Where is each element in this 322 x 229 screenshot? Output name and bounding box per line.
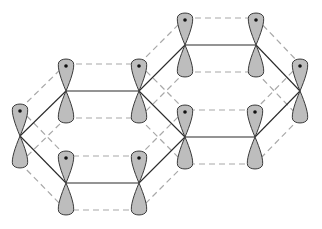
electron-dot (64, 64, 68, 68)
upper-lobe (58, 59, 73, 91)
electron-dot (64, 156, 68, 160)
lower-lobe (247, 137, 262, 169)
electron-dot (298, 64, 302, 68)
electron-dot (183, 18, 187, 22)
upper-lobe (177, 13, 192, 45)
lower-lobe (248, 45, 263, 77)
electron-dot (137, 64, 141, 68)
upper-lobe (248, 13, 263, 45)
p-orbitals (12, 13, 307, 215)
lower-lobe (131, 183, 146, 215)
naphthalene-p-orbital-diagram (0, 0, 322, 229)
electron-dot (18, 109, 22, 113)
electron-dot (137, 156, 141, 160)
p-orbital-atom-A (12, 104, 27, 168)
lower-lobe (58, 183, 73, 215)
electron-dot (254, 18, 258, 22)
p-orbital-atom-I (292, 59, 307, 123)
electron-dot (183, 110, 187, 114)
electron-dot (253, 110, 257, 114)
upper-lobe (292, 59, 307, 91)
